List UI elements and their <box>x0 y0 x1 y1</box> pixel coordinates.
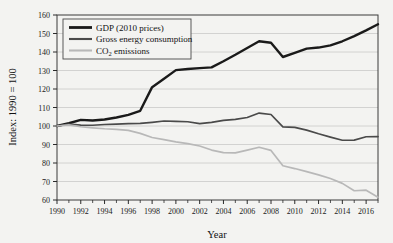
legend-label-co2: CO2 emissions <box>96 46 150 57</box>
legend-label-co2-tail: emissions <box>112 46 150 56</box>
y-tick-label: 80 <box>42 159 50 168</box>
x-tick-label: 2002 <box>192 207 208 216</box>
chart-container: 60708090100110120130140150160 1990199219… <box>0 0 393 243</box>
y-tick-label: 150 <box>38 30 50 39</box>
x-tick-label: 2010 <box>287 207 303 216</box>
legend-label-co2-main: CO <box>96 46 109 56</box>
y-axis-ticks: 60708090100110120130140150160 <box>38 11 57 205</box>
y-tick-label: 110 <box>38 104 50 113</box>
x-tick-label: 1998 <box>144 207 160 216</box>
x-tick-label: 2014 <box>334 207 350 216</box>
y-tick-label: 130 <box>38 67 50 76</box>
x-axis-ticks: 1990199219941996199820002002200420062008… <box>49 200 378 216</box>
y-tick-label: 160 <box>38 11 50 20</box>
line-chart: 60708090100110120130140150160 1990199219… <box>0 0 393 243</box>
x-axis-title: Year <box>207 229 227 240</box>
x-tick-label: 2012 <box>311 207 327 216</box>
series-line <box>57 125 378 197</box>
y-tick-label: 90 <box>42 141 50 150</box>
y-tick-label: 100 <box>38 122 50 131</box>
x-tick-label: 1996 <box>120 207 136 216</box>
y-tick-label: 120 <box>38 85 50 94</box>
chart-legend: GDP (2010 prices) Gross energy consumpti… <box>63 19 193 59</box>
x-tick-label: 1994 <box>97 207 113 216</box>
y-tick-label: 140 <box>38 48 50 57</box>
x-tick-label: 2006 <box>239 207 255 216</box>
y-tick-label: 60 <box>42 196 50 205</box>
x-tick-label: 2000 <box>168 207 184 216</box>
x-tick-label: 2008 <box>263 207 279 216</box>
legend-label-energy: Gross energy consumption <box>96 34 193 44</box>
y-tick-label: 70 <box>42 178 50 187</box>
y-axis-title: Index: 1990 = 100 <box>7 68 18 145</box>
x-tick-label: 2016 <box>358 207 374 216</box>
legend-label-gdp: GDP (2010 prices) <box>96 23 164 33</box>
x-tick-label: 2004 <box>215 207 231 216</box>
series-line <box>57 113 378 140</box>
x-tick-label: 1992 <box>73 207 89 216</box>
x-tick-label: 1990 <box>49 207 65 216</box>
